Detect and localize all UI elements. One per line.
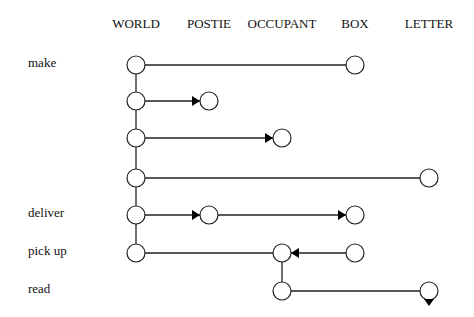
- node-circle: [127, 206, 145, 224]
- node-circle: [200, 92, 218, 110]
- node-circle: [420, 282, 438, 300]
- node-circle: [420, 169, 438, 187]
- node-circle: [127, 92, 145, 110]
- node-circle: [127, 244, 145, 262]
- arrowhead-icon: [192, 210, 200, 220]
- node-circle: [127, 129, 145, 147]
- node-circle: [273, 244, 291, 262]
- node-circle: [346, 206, 364, 224]
- node-circle: [346, 56, 364, 74]
- arrowhead-icon: [192, 96, 200, 106]
- interaction-diagram: [0, 0, 474, 317]
- arrowhead-icon: [291, 248, 299, 258]
- arrowhead-icon: [265, 133, 273, 143]
- node-circle: [273, 129, 291, 147]
- down-arrow-icon: [424, 299, 434, 306]
- node-circle: [273, 282, 291, 300]
- node-circle: [127, 56, 145, 74]
- node-circle: [127, 169, 145, 187]
- node-circle: [200, 206, 218, 224]
- arrowhead-icon: [338, 210, 346, 220]
- node-circle: [346, 244, 364, 262]
